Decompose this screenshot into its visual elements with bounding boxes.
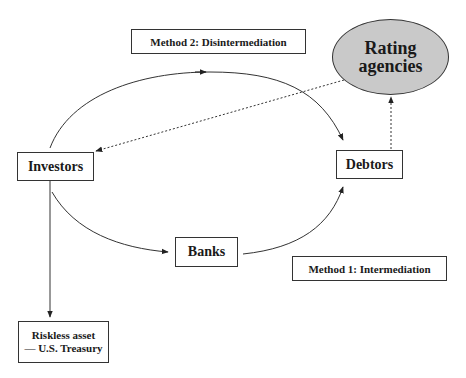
rating-agencies-node: Rating agencies [332, 19, 449, 95]
rating-agencies-line1: Rating [359, 39, 423, 57]
arrow-banks-to-debtors [243, 187, 343, 254]
investors-label: Investors [28, 159, 83, 175]
arrow-investors-to-banks [52, 192, 168, 252]
banks-node: Banks [175, 237, 238, 267]
riskless-line2: — U.S. Treasury [24, 342, 102, 355]
method2-label-box: Method 2: Disintermediation [131, 29, 306, 54]
rating-agencies-line2: agencies [359, 57, 423, 75]
arrow-investors-to-debtors-disintermediation [50, 72, 343, 148]
debtors-node: Debtors [336, 150, 403, 179]
riskless-line1: Riskless asset [24, 329, 102, 342]
method2-label: Method 2: Disintermediation [150, 36, 286, 48]
debtors-label: Debtors [346, 157, 393, 173]
arrow-rating-agencies-to-investors [96, 80, 344, 151]
method1-label: Method 1: Intermediation [308, 263, 430, 275]
banks-label: Banks [188, 244, 225, 260]
riskless-asset-node: Riskless asset — U.S. Treasury [18, 321, 109, 363]
method1-label-box: Method 1: Intermediation [292, 256, 447, 281]
investors-node: Investors [17, 152, 94, 181]
